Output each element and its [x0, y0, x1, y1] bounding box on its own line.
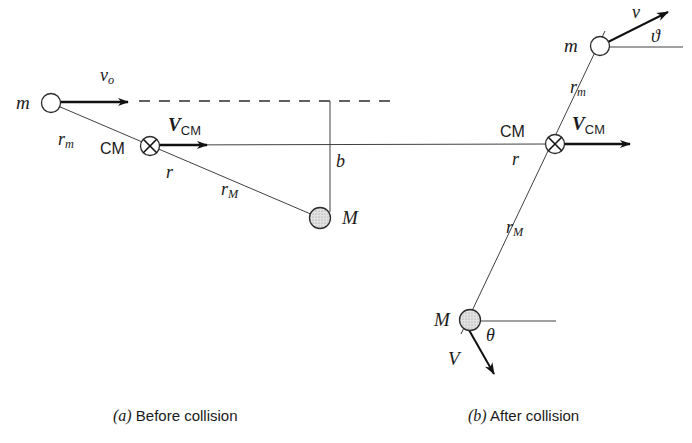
- panel-b-label-radius-M: rM: [506, 218, 523, 239]
- panel-b-label-m: m: [564, 36, 578, 55]
- panel-b-label-radius-m: rm: [570, 78, 586, 99]
- panel-a-label-radius-m-symbol: r: [58, 129, 65, 149]
- panel-b-ball-M: [460, 310, 481, 331]
- panel-b-label-cm: CM: [500, 124, 525, 140]
- caption-panel-b-text: After collision: [490, 407, 579, 424]
- panel-a-label-cm: CM: [100, 141, 125, 157]
- panel-b-cm-marker: [546, 135, 565, 154]
- panel-b-label-final-velocity-M: V: [448, 349, 460, 368]
- panel-a-label-cm-velocity-subscript: CM: [181, 123, 201, 138]
- panel-a-ball-m: [42, 94, 61, 113]
- panel-a-label-cm-velocity: VCM: [168, 115, 201, 138]
- panel-b-label-cm-velocity-subscript: CM: [585, 122, 605, 137]
- panel-b-label-angle-vartheta: ϑ: [651, 27, 660, 45]
- panel-a-cm-marker: [141, 137, 160, 156]
- panel-b-ball-m: [591, 37, 610, 56]
- panel-a-label-initial-velocity-subscript: o: [108, 73, 114, 87]
- panel-a-label-radius-m-subscript: m: [65, 137, 74, 151]
- panel-b-label-angle-theta: θ: [486, 326, 495, 344]
- panel-a-label-initial-velocity-symbol: v: [100, 65, 108, 85]
- panel-b-label-final-velocity-m: v: [632, 3, 640, 21]
- panel-a-label-M: M: [342, 208, 358, 227]
- panel-b-label-radius-m-symbol: r: [570, 77, 577, 97]
- panel-a-label-radius-M-symbol: r: [221, 179, 228, 199]
- panel-b-label-cm-velocity-symbol: V: [572, 113, 585, 134]
- panel-a-label-cm-velocity-symbol: V: [168, 114, 181, 135]
- panel-a-ball-M: [310, 208, 331, 229]
- caption-panel-a-tag: (a): [113, 407, 132, 424]
- panel-a-label-radius-m: rm: [58, 130, 74, 151]
- panel-b-label-radius-M-subscript: M: [513, 225, 523, 239]
- caption-panel-b: (b) After collision: [468, 407, 579, 425]
- panel-a-label-radius-M-subscript: M: [228, 187, 238, 201]
- cm-axis-line: [150, 144, 555, 145]
- collision-figure: m vo rm CM VCM r rM b M m v ϑ rm CM r VC…: [0, 0, 692, 443]
- panel-b-label-radius-m-subscript: m: [577, 85, 586, 99]
- panel-a-label-m: m: [16, 93, 30, 112]
- caption-panel-a: (a) Before collision: [113, 407, 238, 425]
- caption-panel-a-text: Before collision: [136, 407, 238, 424]
- panel-a-label-radius-M: rM: [221, 180, 238, 201]
- panel-b-label-M: M: [434, 310, 450, 329]
- panel-b-label-cm-velocity: VCM: [572, 114, 605, 137]
- panel-b-separation-line: [461, 31, 605, 334]
- panel-a-label-impact-parameter: b: [336, 152, 345, 170]
- panel-a-label-initial-velocity: vo: [100, 66, 114, 87]
- panel-a-label-separation: r: [166, 163, 173, 181]
- panel-b-label-separation: r: [512, 150, 519, 168]
- caption-panel-b-tag: (b): [468, 407, 487, 424]
- panel-b-label-radius-M-symbol: r: [506, 217, 513, 237]
